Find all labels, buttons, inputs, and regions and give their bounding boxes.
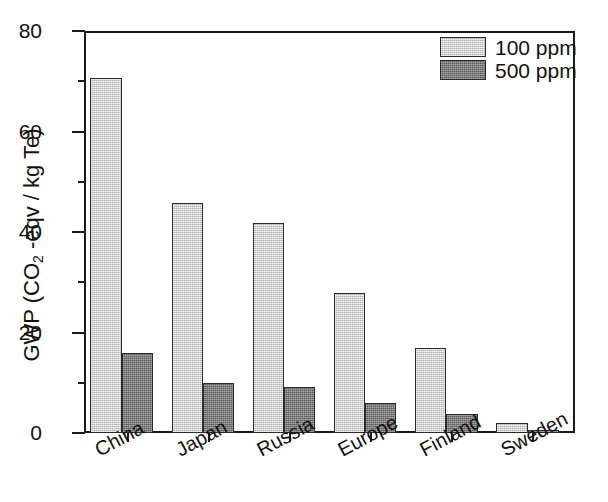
bar-group — [167, 33, 248, 433]
y-axis-title: GWP (CO2 -eqv / kg Te) — [19, 55, 45, 435]
y-tick-major — [72, 30, 85, 32]
y-tick-major — [72, 231, 85, 233]
bar-finland-100-ppm — [415, 348, 446, 433]
chart-legend: 100 ppm500 ppm — [440, 36, 568, 82]
bar-europe-100-ppm — [334, 293, 365, 433]
legend-item: 100 ppm — [440, 36, 568, 58]
y-tick-label: 80 — [19, 20, 42, 41]
y-tick-minor — [78, 80, 85, 82]
bar-group — [248, 33, 329, 433]
y-tick-label: 20 — [19, 322, 42, 343]
bar-group — [492, 33, 573, 433]
y-axis-title-prefix: GWP (CO — [19, 263, 44, 362]
bar-groups — [86, 33, 573, 433]
legend-swatch-100-ppm — [440, 37, 486, 57]
y-tick-label: 40 — [19, 221, 42, 242]
bar-group — [330, 33, 411, 433]
legend-item: 500 ppm — [440, 59, 568, 81]
bar-group — [411, 33, 492, 433]
bar-chart-figure: GWP (CO2 -eqv / kg Te) 020406080 ChinaJa… — [0, 0, 608, 502]
bar-russia-100-ppm — [253, 223, 284, 433]
y-tick-major — [72, 332, 85, 334]
bar-japan-100-ppm — [172, 203, 203, 433]
legend-label: 100 ppm — [495, 37, 577, 58]
y-tick-minor — [78, 382, 85, 384]
y-tick-major — [72, 432, 85, 434]
bar-group — [86, 33, 167, 433]
legend-swatch-500-ppm — [440, 60, 486, 80]
bar-china-100-ppm — [90, 78, 121, 433]
y-tick-minor — [78, 181, 85, 183]
y-tick-label: 0 — [30, 422, 42, 443]
y-axis-title-subscript: 2 — [30, 255, 46, 263]
y-tick-minor — [78, 281, 85, 283]
y-tick-label: 60 — [19, 121, 42, 142]
legend-label: 500 ppm — [495, 60, 577, 81]
y-tick-major — [72, 131, 85, 133]
y-axis: GWP (CO2 -eqv / kg Te) 020406080 — [0, 0, 84, 502]
